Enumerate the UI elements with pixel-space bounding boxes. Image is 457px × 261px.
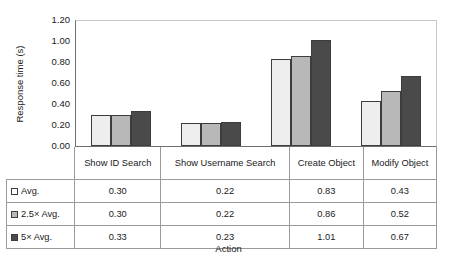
bar — [91, 115, 111, 147]
cell-2-5x-create-object: 0.86 — [290, 203, 364, 226]
table-header-show-id-search: Show ID Search — [75, 147, 161, 180]
bar — [361, 101, 381, 146]
legend-swatch-icon — [11, 188, 18, 195]
cell-2-5x-show-id-search: 0.30 — [75, 203, 161, 226]
bar — [221, 122, 241, 146]
table-row: 2.5× Avg. 0.30 0.22 0.86 0.52 — [7, 203, 437, 226]
legend-swatch-icon — [11, 211, 18, 218]
x-axis-title: Action — [0, 243, 457, 254]
y-tick-label-1-00: 1.00 — [30, 36, 70, 46]
bar — [311, 40, 331, 146]
legend-item-2-5x-avg: 2.5× Avg. — [7, 203, 75, 226]
legend-label: 2.5× Avg. — [21, 209, 60, 219]
legend-swatch-icon — [11, 234, 18, 241]
bar — [271, 59, 291, 146]
cell-2-5x-modify-object: 0.52 — [363, 203, 436, 226]
bar — [131, 111, 151, 146]
bar — [111, 115, 131, 147]
cell-avg-modify-object: 0.43 — [363, 180, 436, 203]
y-tick-label-0-20: 0.20 — [30, 120, 70, 130]
bar — [291, 56, 311, 146]
bar — [201, 123, 221, 146]
legend-item-avg: Avg. — [7, 180, 75, 203]
bar-group — [346, 21, 436, 146]
bar — [381, 91, 401, 146]
table-header-create-object: Create Object — [290, 147, 364, 180]
y-tick-label-0-40: 0.40 — [30, 99, 70, 109]
legend-label: 5× Avg. — [21, 232, 52, 242]
cell-2-5x-show-username-search: 0.22 — [161, 203, 290, 226]
cell-avg-show-username-search: 0.22 — [161, 180, 290, 203]
y-tick-label-0-80: 0.80 — [30, 57, 70, 67]
cell-avg-create-object: 0.83 — [290, 180, 364, 203]
bar — [401, 76, 421, 146]
plot-area — [75, 20, 437, 147]
y-tick-label-1-20: 1.20 — [30, 15, 70, 25]
legend-label: Avg. — [21, 186, 39, 196]
y-tick-label-0-60: 0.60 — [30, 78, 70, 88]
table-row: Avg. 0.30 0.22 0.83 0.43 — [7, 180, 437, 203]
bar-group — [166, 21, 256, 146]
data-table: Show ID Search Show Username Search Crea… — [6, 147, 437, 249]
table-header-modify-object: Modify Object — [363, 147, 436, 180]
bar-group — [256, 21, 346, 146]
y-axis-title: Response time (s) — [10, 20, 28, 148]
table-corner-cell — [7, 147, 75, 180]
bar-series-container — [76, 21, 436, 146]
bar-group — [76, 21, 166, 146]
bar-chart-figure: Response time (s) 1.20 1.00 0.80 0.60 0.… — [0, 0, 457, 261]
table-header-row: Show ID Search Show Username Search Crea… — [7, 147, 437, 180]
table-header-show-username-search: Show Username Search — [161, 147, 290, 180]
y-axis-title-text: Response time (s) — [14, 45, 25, 122]
bar — [181, 123, 201, 146]
cell-avg-show-id-search: 0.30 — [75, 180, 161, 203]
